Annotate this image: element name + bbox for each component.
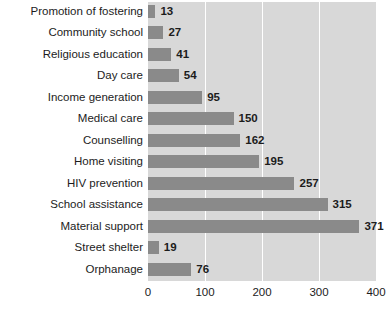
category-label: HIV prevention	[0, 174, 143, 193]
bar	[148, 177, 294, 190]
category-label: Religious education	[0, 45, 143, 64]
x-tick-label: 400	[366, 286, 385, 298]
bar-row: 54	[148, 66, 376, 85]
category-label: Counselling	[0, 131, 143, 150]
bar-value-label: 371	[364, 218, 383, 235]
category-axis: Promotion of fosteringCommunity schoolRe…	[0, 2, 143, 281]
category-label: Home visiting	[0, 152, 143, 171]
bar	[148, 134, 240, 147]
x-tick-label: 0	[145, 286, 151, 298]
category-label: School assistance	[0, 195, 143, 214]
bar	[148, 263, 191, 276]
bar	[148, 69, 179, 82]
bar-value-label: 41	[176, 46, 189, 63]
bar	[148, 5, 155, 18]
plot-area: 13274154951501621952573153711976	[148, 2, 376, 281]
bar-value-label: 257	[299, 175, 318, 192]
bar	[148, 198, 328, 211]
x-tick-label: 300	[309, 286, 328, 298]
bar-row: 150	[148, 109, 376, 128]
bar-row: 371	[148, 217, 376, 236]
bar	[148, 220, 359, 233]
category-label: Material support	[0, 217, 143, 236]
category-label: Community school	[0, 23, 143, 42]
category-label: Orphanage	[0, 260, 143, 279]
bar-value-label: 162	[245, 132, 264, 149]
bar-value-label: 19	[164, 239, 177, 256]
bar-row: 162	[148, 131, 376, 150]
bar-chart: Promotion of fosteringCommunity schoolRe…	[0, 0, 392, 309]
x-axis: 0100200300400	[0, 283, 392, 305]
category-label: Medical care	[0, 109, 143, 128]
bar	[148, 91, 202, 104]
bar-row: 315	[148, 195, 376, 214]
gridline	[376, 2, 377, 281]
bar	[148, 155, 259, 168]
category-label: Promotion of fostering	[0, 2, 143, 21]
bar-value-label: 315	[333, 196, 352, 213]
bar-row: 19	[148, 238, 376, 257]
x-tick-label: 100	[195, 286, 214, 298]
bar	[148, 48, 171, 61]
bar-row: 27	[148, 23, 376, 42]
bar-row: 257	[148, 174, 376, 193]
bar-value-label: 195	[264, 153, 283, 170]
category-label: Income generation	[0, 88, 143, 107]
bar	[148, 112, 234, 125]
bar-row: 76	[148, 260, 376, 279]
bar-value-label: 27	[168, 24, 181, 41]
x-tick-label: 200	[252, 286, 271, 298]
bar-value-label: 13	[160, 3, 173, 20]
bar-row: 195	[148, 152, 376, 171]
bar-row: 95	[148, 88, 376, 107]
category-label: Day care	[0, 66, 143, 85]
bar-value-label: 54	[184, 67, 197, 84]
bar-row: 13	[148, 2, 376, 21]
category-label: Street shelter	[0, 238, 143, 257]
bar-row: 41	[148, 45, 376, 64]
bar-value-label: 76	[196, 261, 209, 278]
bar-value-label: 150	[239, 110, 258, 127]
bar-value-label: 95	[207, 89, 220, 106]
bar	[148, 26, 163, 39]
bar	[148, 241, 159, 254]
